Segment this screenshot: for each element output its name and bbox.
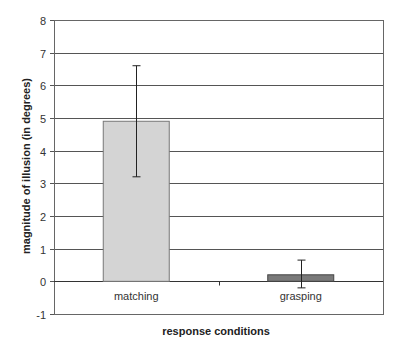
x-tick-label: matching — [114, 290, 159, 302]
y-axis-title: magnitude of illusion (in degrees) — [20, 78, 32, 254]
chart-canvas: -1012345678matchinggrasping — [0, 0, 402, 349]
bar-chart: -1012345678matchinggrasping magnitude of… — [0, 0, 402, 349]
y-tick-label: 2 — [40, 211, 46, 223]
y-tick-label: -1 — [36, 309, 46, 321]
x-axis-title: response conditions — [162, 325, 270, 337]
y-tick-label: 3 — [40, 178, 46, 190]
y-tick-label: 6 — [40, 80, 46, 92]
bar-grasping — [268, 275, 334, 282]
y-tick-label: 1 — [40, 244, 46, 256]
y-tick-label: 0 — [40, 276, 46, 288]
y-tick-label: 4 — [40, 146, 46, 158]
y-tick-label: 7 — [40, 48, 46, 60]
y-tick-label: 8 — [40, 15, 46, 27]
y-tick-label: 5 — [40, 113, 46, 125]
x-tick-label: grasping — [280, 290, 322, 302]
